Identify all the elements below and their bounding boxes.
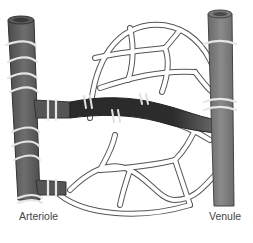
- venule-label: Venule: [209, 210, 241, 222]
- arteriole: [6, 16, 70, 203]
- capillary-bed-diagram: Arteriole Venule: [0, 0, 253, 243]
- capillary-bed-illustration: [0, 0, 253, 243]
- metarteriole-channel: [70, 94, 228, 134]
- arteriole-label: Arteriole: [19, 210, 58, 222]
- venule: [204, 10, 236, 206]
